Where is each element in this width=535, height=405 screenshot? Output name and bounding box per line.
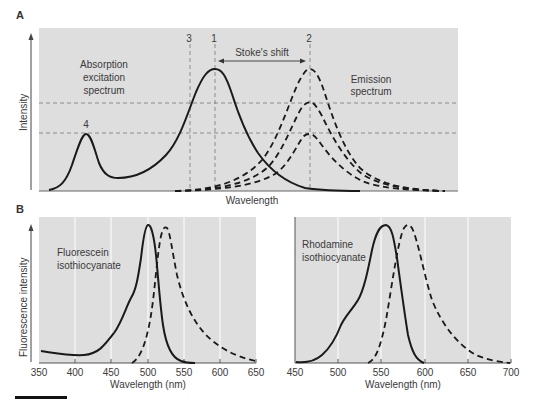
fitc-name-line2: isothiocyanate	[57, 260, 121, 271]
panel-b-ylabel: Fluorescence intensity	[18, 258, 29, 358]
marker-3: 3	[186, 33, 192, 44]
marker-1: 1	[211, 33, 217, 44]
tritc-tick-500: 500	[330, 367, 347, 378]
scale-bar	[15, 396, 67, 399]
tritc-tick-450: 450	[287, 367, 304, 378]
marker-4: 4	[83, 119, 89, 130]
fitc-tick-500: 500	[140, 367, 157, 378]
absorption-label-line3: spectrum	[83, 85, 124, 96]
fitc-tick-550: 550	[176, 367, 193, 378]
fitc-tick-400: 400	[67, 367, 84, 378]
tritc-xlabel: Wavelength (nm)	[365, 379, 441, 390]
marker-2: 2	[306, 33, 312, 44]
panel-a-xlabel: Wavelength	[226, 195, 278, 206]
figure-canvas: A Intensity Wavelength 3 1 2 4 Stoke's s…	[0, 0, 535, 405]
tritc-name-line2: isothiocyanate	[302, 252, 366, 263]
y-axis-arrow-icon	[29, 33, 34, 40]
panel-b-letter: B	[16, 203, 24, 215]
fitc-name-line1: Fluorescein	[57, 247, 109, 258]
fitc-tick-600: 600	[212, 367, 229, 378]
tritc-tick-600: 600	[417, 367, 434, 378]
absorption-label-line1: Absorption	[80, 59, 128, 70]
tritc-tick-700: 700	[503, 367, 520, 378]
emission-label-line2: spectrum	[350, 86, 391, 97]
emission-label-line1: Emission	[351, 74, 392, 85]
fitc-tick-450: 450	[103, 367, 120, 378]
stokes-shift-label: Stoke's shift	[235, 47, 289, 58]
tritc-tick-550: 550	[373, 367, 390, 378]
panel-a-letter: A	[16, 9, 24, 21]
panel-a-ylabel: Intensity	[18, 94, 29, 131]
tritc-tick-650: 650	[460, 367, 477, 378]
y-axis-arrow-icon	[29, 224, 34, 231]
absorption-label-line2: excitation	[83, 72, 125, 83]
fitc-tick-350: 350	[31, 367, 48, 378]
tritc-name-line1: Rhodamine	[302, 239, 354, 250]
fitc-xlabel: Wavelength (nm)	[110, 379, 186, 390]
fitc-tick-650: 650	[248, 367, 265, 378]
